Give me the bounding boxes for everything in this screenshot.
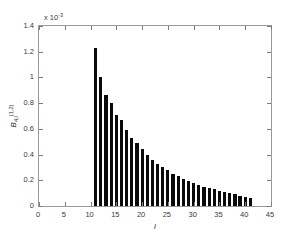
bar	[233, 194, 236, 206]
x-axis-tick	[116, 202, 117, 206]
x-axis-tick	[271, 202, 272, 206]
plot-area	[38, 25, 272, 207]
x-axis-tick-top	[271, 26, 272, 30]
y-axis-tick	[39, 103, 43, 104]
x-axis-tick-top	[168, 26, 169, 30]
bar	[135, 143, 138, 206]
x-axis-title: l	[154, 222, 156, 231]
y-axis-title-base: B	[9, 122, 18, 127]
y-axis-tick-label: 1.4	[24, 21, 34, 30]
y-axis-tick-label: 0.6	[24, 123, 34, 132]
y-axis-tick-right	[267, 180, 271, 181]
y-axis-tick-right	[267, 52, 271, 53]
bar	[141, 149, 144, 206]
bar	[151, 160, 154, 206]
x-axis-tick	[245, 202, 246, 206]
y-axis-title-subscript: 4,l	[13, 116, 19, 122]
bar	[208, 188, 211, 206]
x-axis-tick-label: 30	[188, 210, 196, 219]
bar	[228, 193, 231, 206]
x-axis-tick	[91, 202, 92, 206]
bar	[146, 155, 149, 206]
x-axis-tick-label: 45	[266, 210, 274, 219]
x-axis-tick-label: 20	[137, 210, 145, 219]
x-axis-tick-top	[91, 26, 92, 30]
bar	[213, 189, 216, 206]
bar	[115, 115, 118, 206]
y-axis-multiplier-exponent: -3	[58, 12, 63, 18]
y-axis-tick	[39, 129, 43, 130]
y-axis-tick-right	[267, 26, 271, 27]
x-axis-tick-top	[219, 26, 220, 30]
y-axis-tick-label: 0	[30, 201, 34, 210]
x-axis-tick-top	[194, 26, 195, 30]
y-axis-tick-right	[267, 103, 271, 104]
x-axis-tick-label: 35	[214, 210, 222, 219]
y-axis-tick	[39, 26, 43, 27]
bar	[94, 48, 97, 206]
y-axis-tick	[39, 77, 43, 78]
bar	[161, 167, 164, 206]
x-axis-tick-label: 5	[62, 210, 66, 219]
y-axis-tick-right	[267, 77, 271, 78]
bar	[171, 174, 174, 206]
y-axis-tick-label: 1	[30, 72, 34, 81]
x-axis-tick-label: 10	[85, 210, 93, 219]
bar	[104, 95, 107, 206]
y-axis-title: B4,l(1,2)	[8, 105, 19, 128]
y-axis-tick-label: 0.8	[24, 98, 34, 107]
x-axis-tick-label: 40	[240, 210, 248, 219]
x-axis-tick	[194, 202, 195, 206]
x-axis-tick-top	[245, 26, 246, 30]
bar	[166, 170, 169, 206]
bar	[197, 185, 200, 206]
y-axis-multiplier-text: x 10	[44, 13, 58, 22]
y-axis-tick-right	[267, 129, 271, 130]
y-axis-tick	[39, 155, 43, 156]
bar	[125, 130, 128, 206]
bar	[238, 196, 241, 206]
y-axis-tick-label: 0.2	[24, 175, 34, 184]
bar	[202, 187, 205, 206]
x-axis-tick-label: 0	[36, 210, 40, 219]
y-axis-tick-label: 1.2	[24, 46, 34, 55]
bar	[223, 192, 226, 206]
y-axis-tick-right	[267, 155, 271, 156]
y-axis-multiplier: x 10-3	[44, 12, 63, 22]
x-axis-tick	[168, 202, 169, 206]
x-axis-tick	[219, 202, 220, 206]
y-axis-tick	[39, 180, 43, 181]
y-axis-title-superscript: (1,2)	[8, 105, 14, 117]
y-axis-tick	[39, 52, 43, 53]
x-axis-tick-top	[116, 26, 117, 30]
bar	[177, 176, 180, 206]
bar	[110, 103, 113, 206]
x-axis-tick-top	[65, 26, 66, 30]
y-axis-tick-label: 0.4	[24, 149, 34, 158]
y-axis-tick-right	[267, 206, 271, 207]
y-axis-tick	[39, 206, 43, 207]
bar	[187, 181, 190, 206]
bar-series	[39, 26, 271, 206]
figure-bar-chart: x 10-3 B4,l(1,2) l 05101520253035404500.…	[0, 0, 286, 239]
bar	[120, 120, 123, 206]
bar	[156, 164, 159, 206]
x-axis-tick-label: 15	[111, 210, 119, 219]
x-axis-tick-label: 25	[163, 210, 171, 219]
bar	[130, 138, 133, 206]
x-axis-tick	[65, 202, 66, 206]
bar	[182, 179, 185, 206]
bar	[99, 77, 102, 206]
x-axis-tick-top	[142, 26, 143, 30]
bar	[249, 198, 252, 206]
x-axis-tick	[142, 202, 143, 206]
